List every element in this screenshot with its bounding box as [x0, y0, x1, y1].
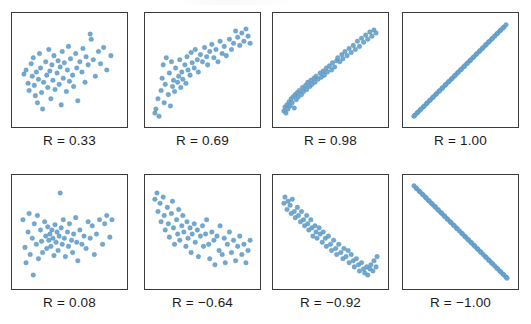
- panel-label-2: R = 0.98: [265, 133, 396, 148]
- plot-area-4: [11, 174, 128, 290]
- panel-label-3: R = 1.00: [395, 133, 526, 148]
- scatter-points-1: [145, 13, 260, 127]
- plot-area-7: [402, 174, 519, 290]
- scatter-points-6: [273, 175, 388, 289]
- scatter-points-7: [403, 175, 518, 289]
- plot-area-0: [11, 12, 128, 128]
- panel-label-7: R = −1.00: [395, 295, 526, 310]
- scatter-panel-2: R = 0.98: [265, 0, 396, 162]
- scatter-matrix-figure: R = 0.33 R = 0.69 R = 0.98 R = 1.00: [0, 0, 531, 324]
- panel-label-1: R = 0.69: [137, 133, 268, 148]
- panel-label-0: R = 0.33: [4, 133, 135, 148]
- scatter-panel-5: R = −0.64: [137, 162, 268, 324]
- plot-area-6: [272, 174, 389, 290]
- scatter-panel-0: R = 0.33: [4, 0, 135, 162]
- scatter-panel-1: R = 0.69: [137, 0, 268, 162]
- scatter-panel-4: R = 0.08: [4, 162, 135, 324]
- scatter-points-4: [12, 175, 127, 289]
- panel-label-6: R = −0.92: [265, 295, 396, 310]
- scatter-points-5: [145, 175, 260, 289]
- panel-row-top: R = 0.33 R = 0.69 R = 0.98 R = 1.00: [0, 0, 531, 162]
- plot-area-5: [144, 174, 261, 290]
- panel-label-4: R = 0.08: [4, 295, 135, 310]
- scatter-panel-6: R = −0.92: [265, 162, 396, 324]
- panel-label-5: R = −0.64: [137, 295, 268, 310]
- plot-area-1: [144, 12, 261, 128]
- panel-row-bottom: R = 0.08 R = −0.64 R = −0.92 R = −1.00: [0, 162, 531, 324]
- scatter-panel-3: R = 1.00: [395, 0, 526, 162]
- scatter-points-2: [273, 13, 388, 127]
- plot-area-2: [272, 12, 389, 128]
- scatter-panel-7: R = −1.00: [395, 162, 526, 324]
- scatter-points-3: [403, 13, 518, 127]
- plot-area-3: [402, 12, 519, 128]
- scatter-points-0: [12, 13, 127, 127]
